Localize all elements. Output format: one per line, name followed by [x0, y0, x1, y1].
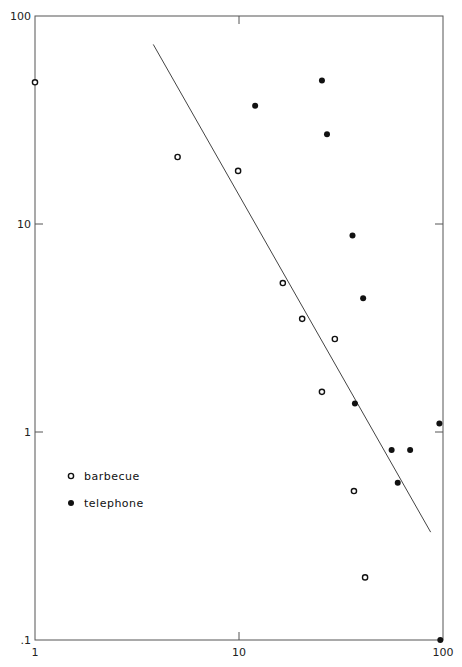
- telephone-data-point: [437, 637, 443, 643]
- regression-line: [153, 44, 430, 532]
- y-tick-label: 1: [24, 426, 31, 439]
- telephone-data-point: [407, 447, 413, 453]
- barbecue-data-point: [332, 336, 337, 341]
- barbecue-data-point: [175, 154, 180, 159]
- x-tick-label: 1: [32, 646, 39, 659]
- x-tick-label: 10: [232, 646, 246, 659]
- telephone-data-point: [360, 295, 366, 301]
- telephone-data-point: [436, 420, 442, 426]
- barbecue-marker-icon: [68, 473, 73, 478]
- y-tick-label: .1: [21, 634, 32, 647]
- telephone-data-point: [349, 233, 355, 239]
- telephone-marker-icon: [68, 500, 74, 506]
- barbecue-data-point: [351, 488, 356, 493]
- axis-ticks: [35, 16, 443, 640]
- barbecue-data-point: [236, 168, 241, 173]
- telephone-data-point: [389, 447, 395, 453]
- data-points: [32, 77, 443, 643]
- plot-frame: [35, 16, 443, 640]
- telephone-data-point: [352, 401, 358, 407]
- legend-label-barbecue: barbecue: [84, 470, 140, 483]
- telephone-data-point: [319, 77, 325, 83]
- legend: barbecue telephone: [68, 470, 144, 510]
- axis-tick-labels: 110100100101.1: [10, 10, 454, 659]
- barbecue-data-point: [32, 80, 37, 85]
- y-tick-label: 100: [10, 10, 31, 23]
- barbecue-data-point: [319, 389, 324, 394]
- barbecue-data-point: [280, 280, 285, 285]
- y-tick-label: 10: [17, 218, 31, 231]
- x-tick-label: 100: [433, 646, 454, 659]
- barbecue-data-point: [300, 316, 305, 321]
- telephone-data-point: [252, 103, 258, 109]
- barbecue-data-point: [362, 575, 367, 580]
- telephone-data-point: [395, 480, 401, 486]
- log-log-scatter-chart: 110100100101.1 barbecue telephone: [0, 0, 462, 667]
- telephone-data-point: [324, 131, 330, 137]
- legend-label-telephone: telephone: [84, 497, 144, 510]
